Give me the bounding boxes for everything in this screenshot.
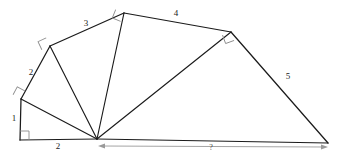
spoke-to-left-vertex-line: [21, 99, 97, 139]
spoke-to-right-vertex-line: [97, 32, 231, 139]
label-base-segment: 2: [56, 142, 61, 151]
side-2-edge: [21, 46, 50, 99]
dimension-arrowhead-right-icon: [321, 145, 328, 150]
label-side-4: 4: [174, 9, 179, 18]
geometry-figure: 1 2 3 4 5 2 ?: [0, 0, 347, 160]
label-side-1: 1: [12, 114, 17, 123]
side-5-edge: [231, 32, 328, 143]
side-1-edge: [20, 99, 21, 140]
label-side-2: 2: [29, 68, 34, 77]
right-angle-at-origin-icon: [20, 131, 29, 140]
label-side-3: 3: [84, 19, 89, 28]
label-unknown: ?: [209, 144, 213, 152]
dimension-arrowhead-left-icon: [98, 144, 105, 149]
right-angle-at-left-vertex-icon: [13, 87, 25, 99]
label-side-5: 5: [286, 72, 291, 81]
spoke-to-upper-left-vertex-line: [50, 46, 97, 139]
figure-canvas: [0, 0, 347, 160]
